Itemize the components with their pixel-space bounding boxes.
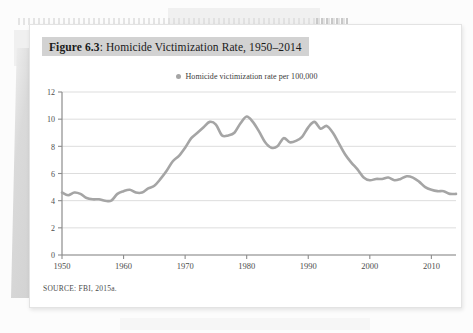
figure-card: Figure 6.3: Homicide Victimization Rate,… xyxy=(29,24,462,308)
svg-text:8: 8 xyxy=(51,143,55,152)
svg-text:1950: 1950 xyxy=(54,261,71,271)
homicide-rate-line xyxy=(62,116,456,201)
chart-gridlines xyxy=(62,92,456,255)
svg-text:6: 6 xyxy=(51,170,55,179)
svg-text:4: 4 xyxy=(51,197,55,206)
svg-text:0: 0 xyxy=(51,251,55,260)
svg-text:2: 2 xyxy=(51,224,55,233)
svg-text:2010: 2010 xyxy=(423,261,440,271)
svg-text:1970: 1970 xyxy=(177,261,194,271)
y-axis-ticks: 024681012 xyxy=(47,88,62,260)
x-axis-ticks: 1950196019701980199020002010 xyxy=(54,255,440,271)
svg-text:10: 10 xyxy=(47,115,55,124)
svg-text:2000: 2000 xyxy=(361,261,378,271)
svg-text:12: 12 xyxy=(47,88,55,97)
page-bottom-smudge xyxy=(120,318,370,330)
plot-area: 024681012 1950196019701980199020002010 xyxy=(30,25,463,309)
svg-text:1980: 1980 xyxy=(238,261,255,271)
svg-text:1990: 1990 xyxy=(300,261,317,271)
line-chart-svg: 024681012 1950196019701980199020002010 xyxy=(30,25,463,309)
source-note: SOURCE: FBI, 2015a. xyxy=(43,284,117,293)
svg-text:1960: 1960 xyxy=(115,261,132,271)
